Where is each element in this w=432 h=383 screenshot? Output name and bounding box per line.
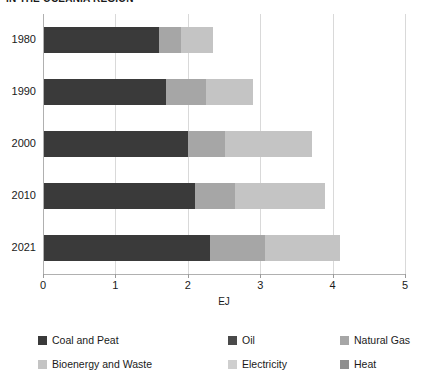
bar-segment xyxy=(43,27,159,53)
bar-segment xyxy=(43,183,195,209)
bar-row xyxy=(43,131,312,157)
legend-label: Oil xyxy=(242,334,255,346)
legend-label: Heat xyxy=(354,358,376,370)
y-axis-line xyxy=(43,14,44,275)
legend-swatch-icon xyxy=(38,336,47,345)
bar-segment xyxy=(235,183,326,209)
legend-swatch-icon xyxy=(228,336,237,345)
plot-area xyxy=(43,14,405,274)
legend-item[interactable]: Oil xyxy=(228,334,255,346)
y-tick-label-1990: 1990 xyxy=(0,85,36,97)
legend-item[interactable]: Heat xyxy=(340,358,376,370)
x-tick-mark xyxy=(188,274,189,278)
legend-swatch-icon xyxy=(38,360,47,369)
bar-segment xyxy=(210,235,266,261)
x-tick-label: 2 xyxy=(173,279,203,291)
bar-row xyxy=(43,235,340,261)
legend-item[interactable]: Bioenergy and Waste xyxy=(38,358,152,370)
x-axis-title: EJ xyxy=(43,296,405,307)
y-tick-label-2010: 2010 xyxy=(0,189,36,201)
bar-segment xyxy=(43,131,188,157)
bar-segment xyxy=(159,27,181,53)
y-tick-label-2000: 2000 xyxy=(0,137,36,149)
x-tick-mark xyxy=(405,274,406,278)
legend-swatch-icon xyxy=(228,360,237,369)
bar-segment xyxy=(265,235,340,261)
bar-row xyxy=(43,79,253,105)
legend-label: Natural Gas xyxy=(354,334,410,346)
chart-legend: Coal and PeatOilNatural GasBioenergy and… xyxy=(0,334,432,380)
legend-item[interactable]: Electricity xyxy=(228,358,287,370)
x-tick-label: 1 xyxy=(100,279,130,291)
x-tick-mark xyxy=(43,274,44,278)
bar-segment xyxy=(206,79,253,105)
y-tick-label-2021: 2021 xyxy=(0,241,36,253)
gridline xyxy=(405,14,406,274)
bar-segment xyxy=(225,131,312,157)
x-tick-label: 3 xyxy=(245,279,275,291)
legend-label: Bioenergy and Waste xyxy=(52,358,152,370)
legend-item[interactable]: Natural Gas xyxy=(340,334,410,346)
bar-segment xyxy=(166,79,206,105)
x-tick-label: 5 xyxy=(390,279,420,291)
x-tick-mark xyxy=(115,274,116,278)
legend-swatch-icon xyxy=(340,360,349,369)
x-tick-mark xyxy=(260,274,261,278)
legend-label: Electricity xyxy=(242,358,287,370)
bar-segment xyxy=(188,131,226,157)
bar-segment xyxy=(181,27,214,53)
legend-swatch-icon xyxy=(340,336,349,345)
x-axis-line xyxy=(43,274,405,275)
y-tick-label-1980: 1980 xyxy=(0,33,36,45)
x-tick-label: 0 xyxy=(28,279,58,291)
legend-item[interactable]: Coal and Peat xyxy=(38,334,119,346)
bar-segment xyxy=(195,183,235,209)
bar-segment xyxy=(43,79,166,105)
bar-row xyxy=(43,27,213,53)
chart-title: IN THE OCEANIA REGION xyxy=(6,0,134,5)
x-tick-mark xyxy=(333,274,334,278)
bar-row xyxy=(43,183,325,209)
bar-segment xyxy=(43,235,210,261)
x-tick-label: 4 xyxy=(318,279,348,291)
stacked-bar-chart: IN THE OCEANIA REGION 012345 19801990200… xyxy=(0,0,432,383)
legend-label: Coal and Peat xyxy=(52,334,119,346)
